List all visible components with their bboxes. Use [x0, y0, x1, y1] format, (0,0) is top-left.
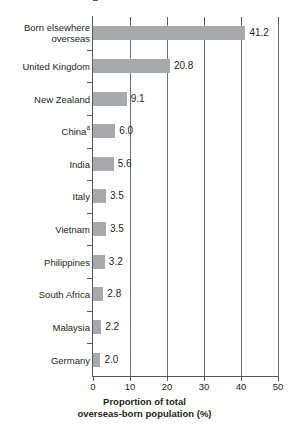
bar-row: South Africa2.8 [0, 278, 289, 311]
bar-row: Malaysia2.2 [0, 311, 289, 344]
bar [93, 255, 105, 269]
bar [93, 124, 115, 138]
bar-row: Born elsewhereoverseas41.2 [0, 17, 289, 50]
category-label-line1: South Africa [4, 289, 90, 300]
bar [93, 157, 114, 171]
bar [93, 222, 106, 236]
category-label: Chinaa [4, 126, 90, 137]
x-tick-label-50: 50 [273, 381, 284, 393]
category-label-line1: Italy [4, 191, 90, 202]
category-label: India [4, 158, 90, 169]
bar-row: Philippines3.2 [0, 245, 289, 278]
x-axis-title: Proportion of total overseas-born popula… [0, 396, 289, 420]
bar-chart: 01020304050 Born elsewhereoverseas41.2Un… [0, 0, 289, 430]
category-label: Philippines [4, 256, 90, 267]
bar-value-label: 2.8 [107, 288, 121, 300]
bar-row: New Zealand9.1 [0, 82, 289, 115]
category-label: Germany [4, 354, 90, 365]
x-tick-label-40: 40 [236, 381, 247, 393]
bar-value-label: 9.1 [131, 93, 145, 105]
bar [93, 353, 100, 367]
bar [93, 189, 106, 203]
bar-value-label: 6.0 [119, 125, 133, 137]
bar-value-label: 2.0 [104, 354, 118, 366]
x-axis-title-line1: Proportion of total [0, 396, 289, 408]
category-label-line1: United Kingdom [4, 60, 90, 71]
bar-row: Chinaa6.0 [0, 115, 289, 148]
bar [93, 287, 103, 301]
category-label-line2: overseas [4, 33, 90, 44]
category-label: South Africa [4, 289, 90, 300]
category-label-line1: Chinaa [4, 126, 90, 137]
bar-value-label: 2.2 [105, 321, 119, 333]
bar [93, 26, 245, 40]
bar-value-label: 3.5 [110, 190, 124, 202]
bar-row: Vietnam3.5 [0, 213, 289, 246]
category-label-line1: India [4, 158, 90, 169]
bar-row: Italy3.5 [0, 180, 289, 213]
category-label: Malaysia [4, 322, 90, 333]
category-label: United Kingdom [4, 60, 90, 71]
bar [93, 59, 170, 73]
footnote-superscript: a [86, 125, 90, 132]
x-tick-label-20: 20 [162, 381, 173, 393]
bar-row: Germany2.0 [0, 343, 289, 376]
x-axis-title-line2: overseas-born population (%) [0, 408, 289, 420]
category-label: New Zealand [4, 93, 90, 104]
bar-row: India5.6 [0, 148, 289, 181]
bar [93, 320, 101, 334]
bar-row: United Kingdom20.8 [0, 50, 289, 83]
x-tick-label-10: 10 [125, 381, 136, 393]
category-label: Vietnam [4, 224, 90, 235]
x-axis-line [92, 376, 279, 377]
x-tick-label-30: 30 [199, 381, 210, 393]
bar [93, 92, 127, 106]
category-label-line1: Born elsewhere [4, 22, 90, 33]
category-label-line1: Germany [4, 354, 90, 365]
category-label-line1: Philippines [4, 256, 90, 267]
bar-value-label: 20.8 [174, 60, 193, 72]
bar-value-label: 5.6 [118, 158, 132, 170]
bar-value-label: 41.2 [249, 27, 268, 39]
category-label-line1: Malaysia [4, 322, 90, 333]
plot-frame-corner [93, 0, 98, 1]
bar-value-label: 3.2 [109, 256, 123, 268]
x-tick-label-0: 0 [90, 381, 95, 393]
category-label-line1: New Zealand [4, 93, 90, 104]
bar-value-label: 3.5 [110, 223, 124, 235]
category-label: Born elsewhereoverseas [4, 22, 90, 44]
category-label-line1: Vietnam [4, 224, 90, 235]
category-label: Italy [4, 191, 90, 202]
